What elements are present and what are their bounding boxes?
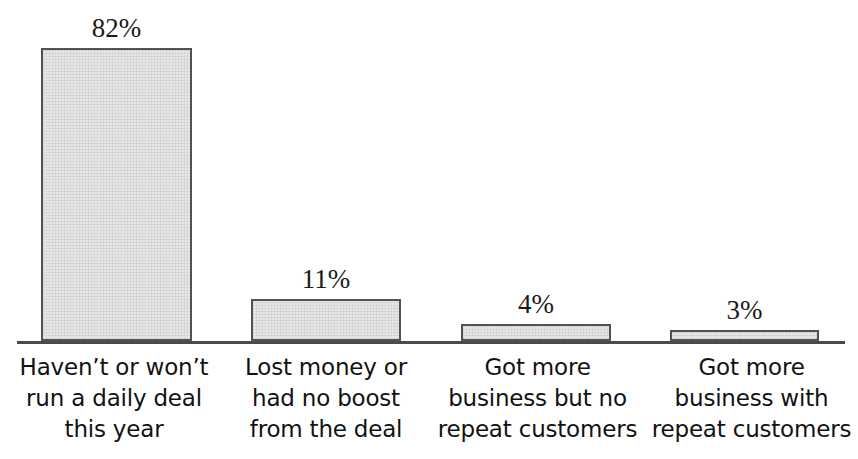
- category-label-2-line-3: from the deal: [222, 414, 430, 445]
- category-label-4-line-3: repeat customers: [645, 414, 858, 445]
- category-label-1: Haven’t or won’t run a daily deal this y…: [6, 352, 222, 445]
- category-label-3: Got more business but no repeat customer…: [430, 352, 645, 445]
- category-label-1-line-2: run a daily deal: [6, 383, 222, 414]
- category-label-4-line-2: business with: [645, 383, 858, 414]
- category-label-3-line-2: business but no: [430, 383, 645, 414]
- bar-chart: 82% 11% 4% 3% Haven’t or won’t run a dai…: [0, 0, 858, 459]
- plot-area: 82% 11% 4% 3%: [0, 0, 858, 344]
- category-axis-labels: Haven’t or won’t run a daily deal this y…: [0, 352, 858, 459]
- bar-4[interactable]: [670, 330, 819, 341]
- category-label-2-line-1: Lost money or: [222, 352, 430, 383]
- category-label-1-line-1: Haven’t or won’t: [6, 352, 222, 383]
- bar-value-label-2: 11%: [302, 266, 351, 293]
- bar-value-label-1: 82%: [92, 15, 142, 42]
- category-label-4-line-1: Got more: [645, 352, 858, 383]
- bar-1[interactable]: [41, 48, 192, 341]
- category-label-2: Lost money or had no boost from the deal: [222, 352, 430, 445]
- bar-value-label-4: 3%: [727, 297, 763, 324]
- category-label-2-line-2: had no boost: [222, 383, 430, 414]
- category-label-4: Got more business with repeat customers: [645, 352, 858, 445]
- category-label-1-line-3: this year: [6, 414, 222, 445]
- category-label-3-line-3: repeat customers: [430, 414, 645, 445]
- bar-2[interactable]: [251, 299, 401, 341]
- category-label-3-line-1: Got more: [430, 352, 645, 383]
- bar-3[interactable]: [461, 324, 611, 341]
- baseline-axis: [17, 341, 845, 344]
- bar-value-label-3: 4%: [518, 291, 554, 318]
